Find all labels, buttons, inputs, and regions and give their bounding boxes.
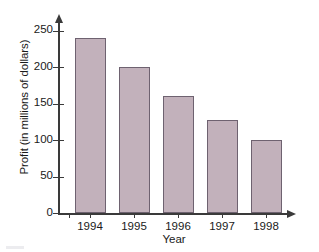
- x-axis-tick-label: 1995: [112, 220, 156, 232]
- y-axis-tick-mark: [53, 177, 64, 178]
- y-axis-tick-label: 50: [40, 169, 53, 181]
- x-axis-tick-mark: [69, 213, 70, 218]
- y-axis-line: [58, 22, 60, 214]
- bar: [207, 120, 238, 213]
- y-axis-tick-label: 150: [34, 96, 53, 108]
- y-axis-tick-mark: [53, 104, 64, 105]
- x-axis-tick-label: 1994: [68, 220, 112, 232]
- y-axis-title: Profit (in millions of dollars): [18, 12, 30, 202]
- x-axis-arrow-icon: [287, 210, 296, 218]
- bar-chart-figure: Profit (in millions of dollars) 05010015…: [0, 0, 319, 252]
- x-axis-tick-mark: [134, 213, 135, 218]
- bar: [75, 38, 106, 213]
- x-axis-tick-label: 1998: [244, 220, 288, 232]
- y-axis-arrow-icon: [55, 14, 63, 23]
- x-axis-tick-mark: [266, 213, 267, 218]
- bar: [251, 140, 282, 213]
- y-axis-tick-label: 200: [34, 60, 53, 72]
- x-axis-tick-mark: [178, 213, 179, 218]
- bar: [163, 96, 194, 213]
- plot-area: 050100150200250 19941995199619971998: [58, 14, 298, 214]
- x-axis-tick-mark: [222, 213, 223, 218]
- x-axis-tick-label: 1996: [156, 220, 200, 232]
- y-axis-tick-mark: [53, 213, 64, 214]
- y-axis-tick-mark: [53, 31, 64, 32]
- y-axis-tick-label: 0: [47, 206, 53, 218]
- y-axis-tick-label: 250: [34, 23, 53, 35]
- x-axis-title: Year: [58, 233, 290, 245]
- y-axis-tick-mark: [53, 140, 64, 141]
- bar: [119, 67, 150, 213]
- x-axis-tick-mark: [90, 213, 91, 218]
- x-axis-line: [58, 213, 290, 215]
- scan-artifact: [6, 246, 24, 249]
- y-axis-tick-mark: [53, 67, 64, 68]
- y-axis-tick-label: 100: [34, 133, 53, 145]
- x-axis-tick-label: 1997: [200, 220, 244, 232]
